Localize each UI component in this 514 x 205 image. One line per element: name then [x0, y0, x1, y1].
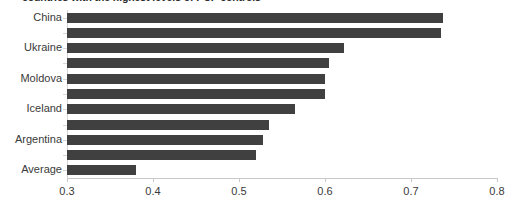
bar — [67, 43, 344, 53]
bar — [67, 28, 441, 38]
bar — [67, 58, 329, 68]
bar — [67, 74, 325, 84]
x-axis-tick — [325, 178, 326, 182]
x-axis-tick — [411, 178, 412, 182]
x-axis-line — [67, 178, 497, 179]
y-axis-tick-label: Ukraine — [0, 41, 62, 53]
x-axis-tick — [67, 178, 68, 182]
y-axis-tick — [63, 170, 67, 171]
y-axis-tick — [63, 33, 67, 34]
y-axis-tick — [63, 79, 67, 80]
bar — [67, 165, 136, 175]
x-axis-tick-label: 0.5 — [231, 185, 246, 197]
x-axis-tick — [239, 178, 240, 182]
x-axis-tick-label: 0.6 — [317, 185, 332, 197]
x-axis-tick-label: 0.8 — [489, 185, 504, 197]
y-axis-tick — [63, 155, 67, 156]
y-axis-tick-label: Argentina — [0, 133, 62, 145]
y-axis-tick — [63, 140, 67, 141]
y-axis-tick — [63, 125, 67, 126]
x-axis-tick — [497, 178, 498, 182]
bar — [67, 89, 325, 99]
bar-chart: countries with the highest levels of PCP… — [0, 0, 514, 205]
bar — [67, 135, 263, 145]
y-axis-tick — [63, 18, 67, 19]
bar — [67, 13, 443, 23]
chart-title: countries with the highest levels of PCP… — [22, 0, 261, 3]
y-axis-tick-label: Average — [0, 163, 62, 175]
bar — [67, 104, 295, 114]
bar — [67, 150, 256, 160]
y-axis-tick — [63, 63, 67, 64]
y-axis-tick — [63, 109, 67, 110]
y-axis-tick — [63, 48, 67, 49]
y-axis-tick-label: Iceland — [0, 102, 62, 114]
x-axis-tick — [153, 178, 154, 182]
y-axis-tick-label: Moldova — [0, 72, 62, 84]
x-axis-tick-label: 0.3 — [59, 185, 74, 197]
y-axis-tick — [63, 94, 67, 95]
bar — [67, 120, 269, 130]
y-axis-tick-label: China — [0, 11, 62, 23]
y-axis-labels: ChinaUkraineMoldovaIcelandArgentinaAvera… — [0, 10, 62, 178]
plot-area — [67, 10, 497, 177]
x-axis-tick-label: 0.4 — [145, 185, 160, 197]
x-axis-tick-label: 0.7 — [403, 185, 418, 197]
